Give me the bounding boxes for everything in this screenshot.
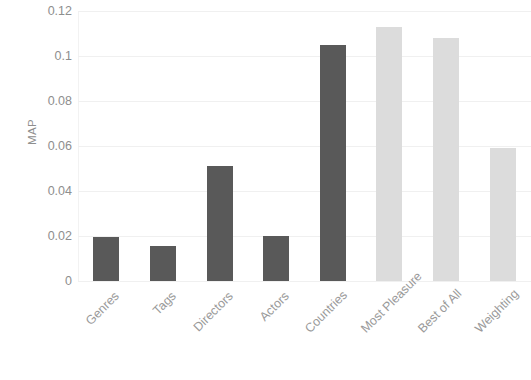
bar-chart: MAP 00.020.040.060.080.10.12 GenresTagsD… [0,0,531,380]
bar [150,246,176,281]
y-axis-tick-label: 0.12 [14,4,72,18]
x-axis-tick-label: Best of All [415,289,462,336]
bar [376,27,402,281]
y-axis-tick-label: 0.08 [14,94,72,108]
y-axis-tick-label: 0 [14,274,72,288]
bar [207,166,233,281]
y-axis-tick-label: 0.1 [14,49,72,63]
x-axis-tick-label: Most Pleasure [359,289,406,336]
x-axis-tick-label: Actors [245,289,292,336]
bar [490,148,516,281]
bar [433,38,459,281]
y-axis-tick-label: 0.06 [14,139,72,153]
bar [263,236,289,281]
bar-series [78,11,531,281]
x-axis-tick-label: Tags [132,289,179,336]
x-axis-tick-label: Countries [302,289,349,336]
x-axis-tick-label: Genres [76,289,123,336]
bar [93,237,119,281]
y-axis-tick-label: 0.04 [14,184,72,198]
y-axis-tick-label: 0.02 [14,229,72,243]
y-axis-tick-labels: 00.020.040.060.080.10.12 [14,0,72,300]
x-axis-tick-label: Directors [189,289,236,336]
plot-area [78,11,531,281]
x-axis-tick-labels: GenresTagsDirectorsActorsCountriesMost P… [78,281,531,380]
x-axis-tick-label: Weighting [472,289,519,336]
bar [320,45,346,281]
